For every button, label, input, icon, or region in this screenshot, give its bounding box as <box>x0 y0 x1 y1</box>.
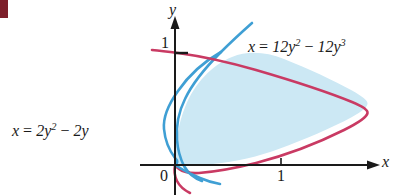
plot-canvas <box>0 0 401 195</box>
blue-eq-lhs: x <box>12 122 19 139</box>
red-eq-lhs: x <box>248 38 255 55</box>
red-eq-term1-exp: 2 <box>295 37 300 48</box>
red-eq-term2-exp: 3 <box>341 37 346 48</box>
blue-eq-equals: = <box>23 122 32 139</box>
x-tick-label-1: 1 <box>277 168 285 184</box>
red-eq-term2-coef: 12 <box>317 38 333 55</box>
origin-label: 0 <box>160 168 168 184</box>
red-eq-minus: − <box>304 38 313 55</box>
red-eq-equals: = <box>259 38 268 55</box>
equation-label-red-curve: x = 12y2 − 12y3 <box>248 38 346 55</box>
equation-label-blue-curve: x = 2y2 − 2y <box>12 122 89 139</box>
blue-eq-term2-var: y <box>81 122 88 139</box>
red-eq-term2-var: y <box>333 38 340 55</box>
blue-eq-minus: − <box>60 122 69 139</box>
blue-eq-term1-coef: 2 <box>36 122 44 139</box>
x-axis-arrowhead <box>367 161 380 170</box>
curve-blue-tail <box>175 165 220 184</box>
x-axis-label: x <box>382 154 389 170</box>
math-figure: y x 1 0 1 x = 12y2 − 12y3 x = 2y2 − 2y <box>0 0 401 195</box>
red-eq-term1-coef: 12 <box>272 38 288 55</box>
blue-eq-term1-exp: 2 <box>51 121 56 132</box>
y-axis-label: y <box>169 2 176 18</box>
y-tick-label-1: 1 <box>161 35 169 51</box>
